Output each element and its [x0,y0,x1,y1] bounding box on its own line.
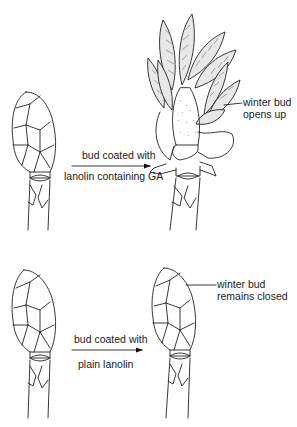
opened-bud-after-ga [148,14,242,230]
closed-bud-before-plain [12,270,56,418]
arrow-label-ga-top: bud coated with [82,149,156,162]
result-label-ga-line2: opens up [243,108,286,121]
diagram-canvas [0,0,297,427]
closed-bud-before-ga [12,92,55,230]
closed-bud-after-plain [152,268,216,418]
arrow-label-ga-bottom: lanolin containing GA [64,170,163,183]
result-label-plain-line2: remains closed [217,290,288,303]
arrow-label-plain-top: bud coated with [74,333,148,346]
arrow-label-plain-bottom: plain lanolin [78,358,133,371]
